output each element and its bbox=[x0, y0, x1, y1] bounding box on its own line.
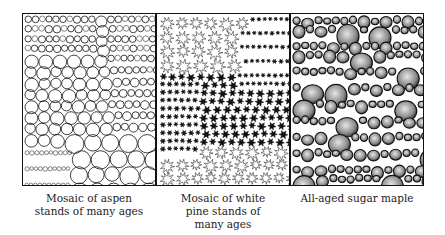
sugar-maple-panel bbox=[291, 14, 423, 185]
caption-line: Mosaic of white bbox=[156, 192, 290, 205]
sugar-maple-caption: All-aged sugar maple bbox=[290, 192, 424, 205]
caption-line: Mosaic of aspen bbox=[22, 192, 156, 205]
white-pine-crowns-illustration bbox=[157, 14, 289, 185]
caption-line: many ages bbox=[156, 218, 290, 231]
aspen-crowns-illustration bbox=[23, 14, 155, 185]
aspen-caption: Mosaic of aspen stands of many ages bbox=[22, 192, 156, 218]
caption-line: stands of many ages bbox=[22, 205, 156, 218]
sugar-maple-crowns-illustration bbox=[291, 14, 423, 185]
white-pine-caption: Mosaic of white pine stands of many ages bbox=[156, 192, 290, 231]
white-pine-mosaic-panel bbox=[157, 14, 289, 185]
caption-line: All-aged sugar maple bbox=[290, 192, 424, 205]
caption-line: pine stands of bbox=[156, 205, 290, 218]
aspen-mosaic-panel bbox=[23, 14, 155, 185]
forest-mosaic-figure bbox=[22, 13, 424, 186]
